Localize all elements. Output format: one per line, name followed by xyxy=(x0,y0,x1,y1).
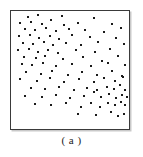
data-point xyxy=(44,55,46,57)
data-point xyxy=(61,15,63,17)
data-point xyxy=(90,102,92,104)
data-point xyxy=(41,96,43,98)
data-point xyxy=(41,23,43,25)
data-point xyxy=(32,43,34,45)
data-point xyxy=(99,106,101,108)
data-point xyxy=(80,44,82,46)
data-point xyxy=(50,104,52,106)
data-point xyxy=(123,43,125,45)
data-point xyxy=(90,65,92,67)
plot-area xyxy=(11,11,129,129)
data-point xyxy=(58,86,60,88)
data-point xyxy=(65,102,67,104)
data-point xyxy=(69,97,71,99)
data-point xyxy=(103,77,105,79)
data-point xyxy=(65,42,67,44)
data-point xyxy=(77,22,79,24)
data-point xyxy=(23,56,25,58)
data-point xyxy=(19,22,21,24)
data-point xyxy=(52,44,54,46)
data-point xyxy=(62,58,64,60)
data-point xyxy=(81,71,83,73)
data-point xyxy=(25,71,27,73)
data-point xyxy=(51,70,53,72)
data-point xyxy=(22,42,24,44)
data-point xyxy=(40,73,42,75)
data-point xyxy=(67,74,69,76)
data-point xyxy=(89,36,91,38)
data-point xyxy=(93,91,95,93)
data-point xyxy=(71,63,73,65)
data-point xyxy=(93,81,95,83)
data-point xyxy=(100,96,102,98)
data-point xyxy=(34,29,36,31)
data-point xyxy=(106,86,108,88)
data-point xyxy=(37,51,39,53)
data-point xyxy=(24,28,26,30)
data-point xyxy=(93,17,95,19)
data-point xyxy=(73,89,75,91)
data-point xyxy=(45,27,47,29)
data-point xyxy=(126,96,128,98)
data-point xyxy=(63,24,65,26)
data-point xyxy=(55,65,57,67)
data-point xyxy=(109,48,111,50)
data-point xyxy=(43,41,45,43)
data-point xyxy=(107,62,109,64)
data-point xyxy=(49,77,51,79)
data-point xyxy=(55,94,57,96)
data-point xyxy=(38,37,40,39)
data-point xyxy=(34,103,36,105)
data-point xyxy=(19,78,21,80)
data-point xyxy=(36,80,38,82)
data-point xyxy=(110,111,112,113)
data-point xyxy=(44,88,46,90)
data-point xyxy=(71,34,73,36)
data-point xyxy=(117,115,119,117)
data-point xyxy=(86,87,88,89)
data-point xyxy=(94,51,96,53)
data-point xyxy=(115,97,117,99)
data-point xyxy=(17,49,19,51)
data-point xyxy=(75,49,77,51)
data-point xyxy=(122,76,124,78)
data-point xyxy=(42,62,44,64)
data-point xyxy=(30,87,32,89)
data-point xyxy=(95,114,97,116)
data-point xyxy=(111,70,113,72)
data-point xyxy=(82,56,84,58)
data-point xyxy=(114,104,116,106)
data-point xyxy=(30,21,32,23)
data-point xyxy=(47,49,49,51)
data-point xyxy=(84,29,86,31)
data-point xyxy=(78,78,80,80)
data-point xyxy=(29,34,31,36)
data-point xyxy=(57,52,59,54)
data-point xyxy=(35,57,37,59)
data-point xyxy=(63,81,65,83)
data-point xyxy=(80,106,82,108)
figure-caption: ( a ) xyxy=(0,134,143,146)
data-point xyxy=(107,102,109,104)
data-point xyxy=(101,60,103,62)
scatter-plot-figure xyxy=(10,10,130,130)
data-point xyxy=(27,16,29,18)
data-point xyxy=(31,64,33,66)
data-point xyxy=(124,104,126,106)
data-point xyxy=(24,95,26,97)
data-point xyxy=(120,27,122,29)
data-point xyxy=(119,84,121,86)
data-point xyxy=(115,37,117,39)
data-point xyxy=(113,88,115,90)
data-point xyxy=(83,95,85,97)
plot-frame xyxy=(10,10,130,130)
data-point xyxy=(28,48,30,50)
data-point xyxy=(124,64,126,66)
data-point xyxy=(120,101,122,103)
data-point xyxy=(114,80,116,82)
data-point xyxy=(117,55,119,57)
data-point xyxy=(68,28,70,30)
data-point xyxy=(108,93,110,95)
data-point xyxy=(103,31,105,33)
data-point xyxy=(50,19,52,21)
